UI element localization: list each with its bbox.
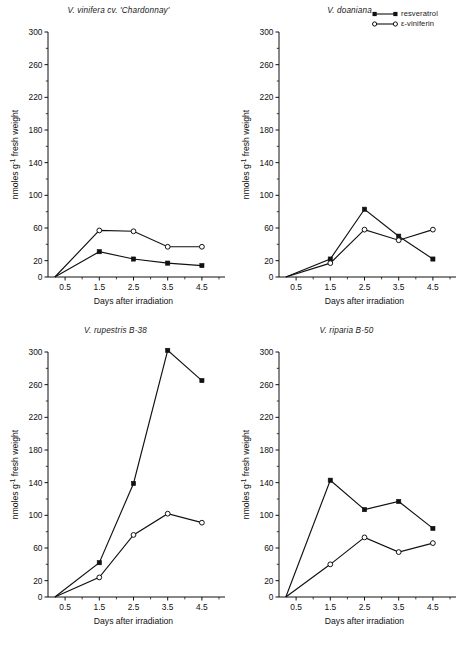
data-point-resveratrol <box>200 378 204 382</box>
y-tick-label: 60 <box>264 543 274 553</box>
x-tick-label: 2.5 <box>359 282 371 292</box>
y-tick-label: 220 <box>260 92 274 102</box>
y-tick-label: 60 <box>33 223 43 233</box>
data-point-resveratrol <box>97 561 101 565</box>
y-tick-label: 140 <box>29 478 43 488</box>
y-tick-label: 300 <box>260 27 274 37</box>
y-tick-label: 220 <box>29 412 43 422</box>
x-axis-label: Days after irradiation <box>94 616 174 626</box>
y-tick-label: 220 <box>260 412 274 422</box>
data-point-viniferin <box>431 541 436 546</box>
y-tick-label: 260 <box>260 60 274 70</box>
y-tick-label: 260 <box>260 380 274 390</box>
x-tick-label: 4.5 <box>196 602 208 612</box>
data-point-viniferin <box>165 244 170 249</box>
x-tick-label: 3.5 <box>393 602 405 612</box>
x-tick-label: 1.5 <box>93 282 105 292</box>
data-point-viniferin <box>97 228 102 233</box>
data-point-resveratrol <box>328 478 332 482</box>
legend-item-resveratrol: resveratrol <box>372 9 438 19</box>
series-line-open-circle <box>286 230 433 277</box>
y-tick-label: 20 <box>33 576 43 586</box>
y-axis-label: nmoles g-1 fresh weight <box>9 109 20 199</box>
y-tick-label: 100 <box>29 190 43 200</box>
x-tick-label: 0.5 <box>290 602 302 612</box>
data-point-viniferin <box>165 511 170 516</box>
chart-panel-chardonnay: V. vinifera cv. 'Chardonnay' 02060100140… <box>0 0 231 318</box>
x-tick-label: 4.5 <box>196 282 208 292</box>
y-tick-label: 220 <box>29 92 43 102</box>
x-tick-label: 4.5 <box>427 282 439 292</box>
x-axis-label: Days after irradiation <box>325 296 405 306</box>
series-line-open-circle <box>55 514 202 597</box>
y-tick-label: 20 <box>33 256 43 266</box>
y-axis-label: nmoles g-1 fresh weight <box>240 109 251 199</box>
chart-panel-rupestris: V. rupestris B-38 0206010014018022026030… <box>0 320 231 638</box>
x-tick-label: 1.5 <box>93 602 105 612</box>
chart-panel-riparia: V. riparia B-50 020601001401802202603000… <box>231 320 462 638</box>
data-point-resveratrol <box>97 250 101 254</box>
data-point-viniferin <box>328 261 333 266</box>
y-tick-label: 140 <box>29 158 43 168</box>
x-tick-label: 1.5 <box>324 282 336 292</box>
data-point-resveratrol <box>166 348 170 352</box>
y-tick-label: 100 <box>260 510 274 520</box>
y-tick-label: 60 <box>264 223 274 233</box>
legend-label: ε-viniferin <box>401 19 434 29</box>
series-line-open-circle <box>286 537 433 597</box>
legend: resveratrol ε-viniferin <box>372 9 438 29</box>
y-tick-label: 260 <box>29 60 43 70</box>
data-point-resveratrol <box>397 499 401 503</box>
x-tick-label: 1.5 <box>324 602 336 612</box>
x-tick-label: 0.5 <box>290 282 302 292</box>
data-point-resveratrol <box>131 257 135 261</box>
chart-panel-doaniana: V. doaniana 020601001401802202603000.51.… <box>231 0 462 318</box>
x-tick-label: 2.5 <box>359 602 371 612</box>
data-point-viniferin <box>131 533 136 538</box>
x-tick-label: 3.5 <box>162 282 174 292</box>
legend-item-viniferin: ε-viniferin <box>372 19 438 29</box>
data-point-viniferin <box>362 535 367 540</box>
x-axis-label: Days after irradiation <box>94 296 174 306</box>
data-point-resveratrol <box>362 508 366 512</box>
y-axis-label: nmoles g-1 fresh weight <box>240 429 251 519</box>
y-tick-label: 140 <box>260 478 274 488</box>
y-tick-label: 0 <box>38 272 43 282</box>
data-point-viniferin <box>131 229 136 234</box>
y-tick-label: 300 <box>260 347 274 357</box>
y-tick-label: 20 <box>264 256 274 266</box>
x-tick-label: 0.5 <box>59 602 71 612</box>
y-axis-label: nmoles g-1 fresh weight <box>9 429 20 519</box>
series-line-open-circle <box>55 230 202 277</box>
y-tick-label: 180 <box>29 125 43 135</box>
x-tick-label: 4.5 <box>427 602 439 612</box>
filled-square-line-icon <box>372 9 398 19</box>
data-point-viniferin <box>362 227 367 232</box>
y-tick-label: 300 <box>29 27 43 37</box>
y-tick-label: 100 <box>260 190 274 200</box>
data-point-resveratrol <box>166 261 170 265</box>
data-point-resveratrol <box>200 263 204 267</box>
data-point-viniferin <box>396 550 401 555</box>
data-point-resveratrol <box>431 257 435 261</box>
x-tick-label: 0.5 <box>59 282 71 292</box>
data-point-viniferin <box>200 520 205 525</box>
data-point-resveratrol <box>431 526 435 530</box>
y-tick-label: 260 <box>29 380 43 390</box>
y-tick-label: 180 <box>260 445 274 455</box>
data-point-viniferin <box>328 562 333 567</box>
y-tick-label: 180 <box>29 445 43 455</box>
series-line-filled-square <box>286 480 433 597</box>
figure-multi-panel-line-charts: V. vinifera cv. 'Chardonnay' 02060100140… <box>0 0 462 647</box>
figure-caption-fragment <box>0 636 462 647</box>
y-tick-label: 180 <box>260 125 274 135</box>
y-tick-label: 300 <box>29 347 43 357</box>
series-line-filled-square <box>55 252 202 277</box>
open-circle-line-icon <box>372 19 398 29</box>
data-point-viniferin <box>200 244 205 249</box>
series-line-filled-square <box>55 350 202 597</box>
y-tick-label: 0 <box>269 592 274 602</box>
y-tick-label: 0 <box>38 592 43 602</box>
y-tick-label: 100 <box>29 510 43 520</box>
x-tick-label: 2.5 <box>128 602 140 612</box>
